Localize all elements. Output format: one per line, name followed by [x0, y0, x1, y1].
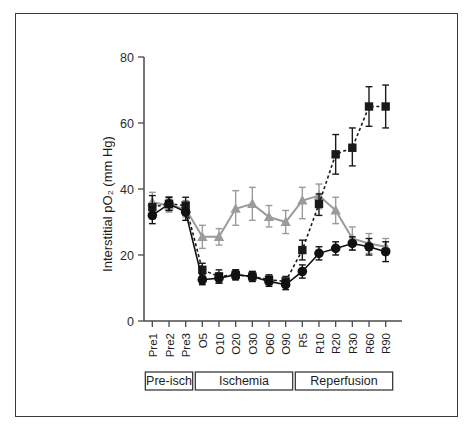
x-tick-label: Pre3	[180, 333, 192, 357]
data-point-marker	[348, 144, 356, 152]
y-tick-label: 0	[127, 315, 134, 329]
x-tick-label: O5	[197, 333, 209, 348]
x-axis-labels: Pre1Pre2Pre3O5O10O20O30O60O90R5R10R20R30…	[147, 333, 392, 357]
x-tick-label: R10	[314, 333, 326, 354]
x-tick-label: O90	[280, 333, 292, 355]
y-tick-label: 60	[120, 117, 134, 131]
phase-bands: Pre-ischIschemiaReperfusion	[145, 372, 392, 390]
y-axis-ticks: 020406080	[120, 51, 144, 329]
x-tick-label: O30	[247, 333, 259, 355]
y-tick-label: 80	[120, 51, 134, 65]
x-tick-label: Pre2	[164, 333, 176, 357]
phase-band-label: Pre-isch	[146, 374, 192, 388]
y-tick-label: 20	[120, 249, 134, 263]
x-tick-label: R20	[330, 333, 342, 354]
data-point-marker	[381, 247, 391, 257]
x-tick-label: O20	[230, 333, 242, 355]
data-point-marker	[331, 244, 341, 254]
series-square-dashed-series	[148, 85, 390, 286]
x-tick-label: O10	[214, 333, 226, 355]
x-tick-label: R90	[380, 333, 392, 354]
data-point-marker	[298, 246, 306, 254]
data-point-marker	[148, 211, 158, 221]
series-line	[152, 107, 385, 282]
data-point-marker	[364, 242, 374, 252]
data-point-marker	[248, 272, 258, 282]
data-point-marker	[331, 150, 339, 158]
data-point-marker	[314, 249, 324, 259]
data-point-marker	[181, 207, 191, 217]
data-point-marker	[214, 273, 224, 283]
phase-band-label: Reperfusion	[310, 374, 377, 388]
phase-band-label: Ischemia	[219, 374, 269, 388]
data-series-group	[147, 85, 391, 290]
data-point-marker	[315, 200, 323, 208]
x-tick-label: R5	[297, 333, 309, 348]
data-point-marker	[348, 239, 358, 249]
data-point-marker	[365, 102, 373, 110]
interstitial-po2-chart: Interstitial pO₂ (mm Hg) 020406080 Pre1P…	[16, 14, 459, 418]
data-point-marker	[381, 102, 389, 110]
x-tick-label: Pre1	[147, 333, 159, 357]
data-point-marker	[164, 199, 174, 209]
x-tick-label: R60	[364, 333, 376, 354]
y-axis-title: Interstitial pO₂ (mm Hg)	[100, 136, 115, 272]
data-point-marker	[264, 211, 274, 221]
plot-stage: Interstitial pO₂ (mm Hg) 020406080 Pre1P…	[16, 14, 459, 418]
data-point-marker	[247, 198, 257, 208]
data-point-marker	[264, 277, 274, 287]
x-tick-label: R30	[347, 333, 359, 354]
data-point-marker	[198, 275, 208, 285]
figure-frame: Interstitial pO₂ (mm Hg) 020406080 Pre1P…	[15, 13, 458, 417]
data-point-marker	[231, 270, 241, 280]
data-point-marker	[281, 280, 291, 290]
x-tick-label: O60	[264, 333, 276, 355]
x-axis-ticks	[152, 321, 385, 327]
data-point-marker	[298, 267, 308, 277]
y-tick-label: 40	[120, 183, 134, 197]
